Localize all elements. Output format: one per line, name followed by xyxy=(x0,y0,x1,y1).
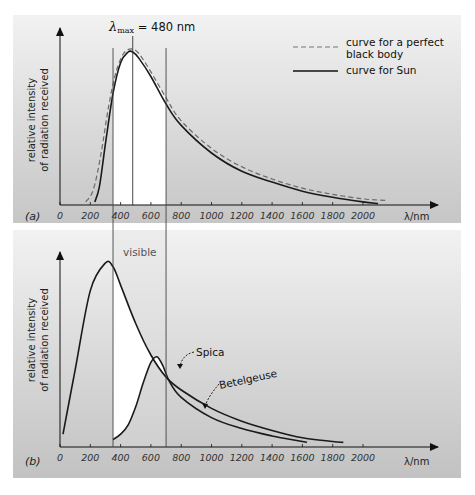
x-tick-label: 1800 xyxy=(321,452,345,463)
x-tick-label: 200 xyxy=(81,452,99,463)
x-tick-label: 1400 xyxy=(260,452,284,463)
x-tick-label: 800 xyxy=(172,452,190,463)
spica-label: Spica xyxy=(196,346,224,358)
x-tick-label: 0 xyxy=(57,210,63,221)
panel-b-background xyxy=(13,230,461,478)
x-tick-label: 1800 xyxy=(321,210,345,221)
panel-b: 0200400600800100012001400160018002000 re… xyxy=(13,230,461,478)
panel-a: 0200400600800100012001400160018002000 re… xyxy=(13,15,461,223)
x-tick-label: 2000 xyxy=(351,452,375,463)
panel-a-x-label: λ/nm xyxy=(404,211,429,222)
y-label-line1: relative intensity xyxy=(26,78,37,162)
x-tick-label: 1200 xyxy=(230,210,254,221)
x-tick-label: 400 xyxy=(112,210,130,221)
x-tick-label: 1200 xyxy=(230,452,254,463)
blackbody-spectrum-figure: 0200400600800100012001400160018002000 re… xyxy=(0,0,475,495)
x-tick-label: 1400 xyxy=(260,210,284,221)
x-tick-label: 1000 xyxy=(199,452,223,463)
x-tick-label: 800 xyxy=(172,210,190,221)
x-tick-label: 600 xyxy=(142,210,160,221)
lambda-value: = 480 nm xyxy=(134,20,195,34)
x-tick-label: 0 xyxy=(57,452,63,463)
legend-blackbody-line1: curve for a perfect xyxy=(346,36,444,48)
y-label-line2: of radiation received xyxy=(39,68,50,172)
x-tick-label: 1600 xyxy=(290,210,314,221)
panel-b-label: (b) xyxy=(25,455,41,468)
x-tick-label: 400 xyxy=(112,452,130,463)
legend-sun: curve for Sun xyxy=(346,64,417,76)
x-tick-label: 600 xyxy=(142,452,160,463)
x-tick-label: 2000 xyxy=(351,210,375,221)
lambda-subscript: max xyxy=(117,26,134,35)
x-tick-label: 1600 xyxy=(290,452,314,463)
lambda-symbol: λ xyxy=(108,19,117,34)
panel-a-label: (a) xyxy=(25,210,40,223)
x-tick-label: 1000 xyxy=(199,210,223,221)
panel-b-x-label: λ/nm xyxy=(404,456,429,467)
y-label-line1: relative intensity xyxy=(26,298,37,382)
visible-annotation: visible xyxy=(123,246,157,258)
x-tick-label: 200 xyxy=(81,210,99,221)
y-label-line2: of radiation received xyxy=(39,288,50,392)
legend-blackbody-line2: black body xyxy=(346,48,403,60)
